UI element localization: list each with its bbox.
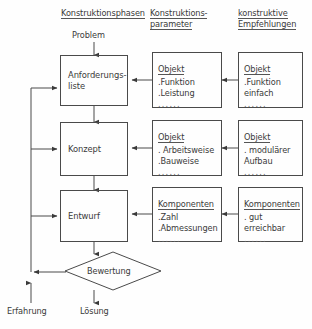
parameter-box-2-dots: ...... [158, 167, 221, 178]
column-header-parameters: Konstruktions- parameter [150, 8, 224, 30]
design-process-diagram: Konstruktionsphasen Konstruktions- param… [0, 0, 312, 329]
recommendation-box-2-line2: Aufbau [244, 156, 302, 167]
parameter-box-2-title: Objekt [158, 132, 184, 143]
column-header-phases-line1: Konstruktionsphasen [61, 8, 145, 19]
decision-label-bewertung: Bewertung [87, 266, 131, 276]
phase-label-line1: Anforderungs- [68, 70, 126, 81]
parameter-box-3-title: Komponenten [158, 199, 214, 210]
parameter-box-objekt-funktion[interactable]: Objekt .Funktion .Leistung ...... [152, 52, 222, 108]
recommendation-box-3-line2: erreichbar [244, 223, 302, 234]
recommendation-box-1-line2: einfach [244, 88, 302, 99]
column-header-recommendations: konstruktive Empfehlungen [238, 8, 312, 30]
entry-label-problem: Problem [72, 30, 105, 40]
phase-box-konzept[interactable]: Konzept [60, 122, 128, 176]
output-label-loesung: Lösung [80, 306, 109, 316]
recommendation-box-2-title: Objekt [244, 132, 270, 143]
parameter-box-2-line1: . Arbeitsweise [158, 145, 221, 156]
recommendation-box-2-line1: . modulärer [244, 145, 302, 156]
column-header-phases: Konstruktionsphasen [48, 8, 158, 19]
parameter-box-2-line2: .Bauweise [158, 156, 221, 167]
column-header-recommendations-line2: Empfehlungen [238, 19, 296, 30]
recommendation-box-objekt-modularer-aufbau[interactable]: Objekt . modulärer Aufbau ...... [238, 120, 303, 176]
recommendation-box-3-dots: ...... [244, 234, 302, 245]
phase-box-anforderungsliste-label: Anforderungs- liste [61, 70, 126, 92]
parameter-box-komponenten-zahl[interactable]: Komponenten .Zahl .Abmessungen ...... [152, 187, 222, 242]
feedback-label-erfahrung: Erfahrung [7, 306, 47, 316]
parameter-box-1-line1: .Funktion [158, 77, 221, 88]
parameter-box-1-title: Objekt [158, 64, 184, 75]
recommendation-box-3-title: Komponenten [244, 199, 300, 210]
parameter-box-objekt-arbeitsweise[interactable]: Objekt . Arbeitsweise .Bauweise ...... [152, 120, 222, 176]
phase-box-konzept-label: Konzept [61, 144, 101, 155]
phase-box-entwurf[interactable]: Entwurf [60, 190, 128, 242]
recommendation-box-2-dots: ...... [244, 167, 302, 178]
parameter-box-1-dots: ...... [158, 99, 221, 110]
phase-box-anforderungsliste[interactable]: Anforderungs- liste [60, 55, 128, 106]
parameter-box-3-dots: ...... [158, 234, 221, 245]
recommendation-box-komponenten-gut-erreichbar[interactable]: Komponenten . gut erreichbar ...... [238, 187, 303, 242]
phase-label-line2: liste [68, 81, 126, 92]
parameter-box-3-line2: .Abmessungen [158, 223, 221, 234]
parameter-box-3-line1: .Zahl [158, 212, 221, 223]
column-header-recommendations-line1: konstruktive [238, 8, 288, 19]
recommendation-box-1-title: Objekt [244, 64, 270, 75]
column-header-parameters-line1: Konstruktions- [150, 8, 207, 19]
recommendation-box-1-dots: ...... [244, 99, 302, 110]
phase-box-entwurf-label: Entwurf [61, 211, 100, 222]
recommendation-box-objekt-funktion-einfach[interactable]: Objekt .Funktion einfach ...... [238, 52, 303, 108]
column-header-parameters-line2: parameter [150, 19, 192, 30]
recommendation-box-1-line1: .Funktion [244, 77, 302, 88]
recommendation-box-3-line1: . gut [244, 212, 302, 223]
parameter-box-1-line2: .Leistung [158, 88, 221, 99]
